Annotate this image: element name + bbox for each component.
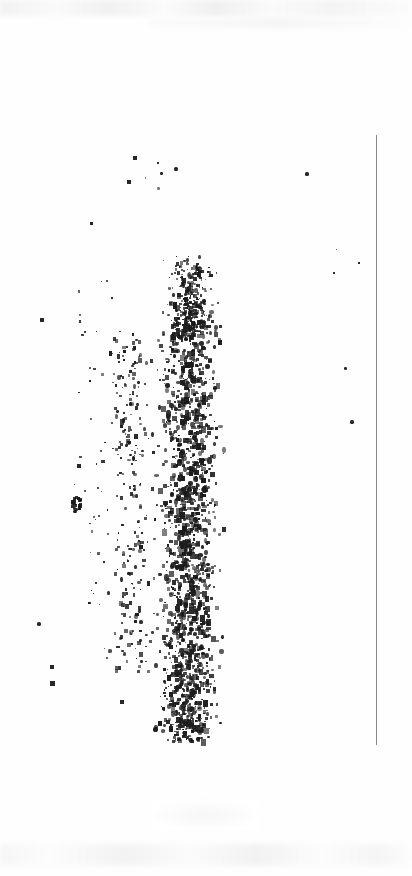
ink-speckle — [88, 602, 90, 604]
ink-speckle — [163, 260, 164, 261]
ink-speckle — [175, 458, 176, 459]
ink-speckle — [212, 370, 215, 374]
ink-speckle — [124, 629, 128, 633]
ink-speckle — [175, 687, 177, 688]
ink-speckle — [199, 528, 201, 529]
ink-speckle — [190, 723, 192, 725]
ink-speckle — [122, 376, 124, 379]
ink-speckle — [187, 618, 189, 621]
ink-speckle — [186, 263, 189, 265]
ink-speckle — [199, 363, 202, 366]
ink-speckle — [157, 339, 160, 342]
ink-speckle — [197, 305, 200, 307]
ink-speckle — [79, 320, 81, 323]
ink-speckle — [190, 507, 193, 510]
ink-speckle — [176, 497, 179, 500]
ink-speckle — [202, 488, 205, 491]
ink-speckle — [122, 524, 124, 526]
ink-speckle — [181, 370, 184, 375]
ink-speckle — [126, 439, 130, 445]
ink-speckle — [190, 399, 193, 403]
ink-speckle — [132, 377, 135, 380]
ink-speckle — [204, 707, 205, 709]
ink-speckle — [167, 669, 168, 670]
ink-speckle — [179, 642, 181, 645]
ink-speckle — [187, 307, 188, 308]
ink-speckle — [118, 446, 121, 449]
ink-speckle — [132, 456, 135, 461]
ink-speckle — [181, 494, 182, 495]
ink-speckle — [132, 372, 136, 376]
ink-speckle — [215, 606, 219, 610]
ink-speckle — [202, 472, 203, 474]
ink-speckle — [194, 669, 197, 672]
ink-speckle — [198, 583, 199, 584]
ink-speckle — [207, 397, 210, 400]
ink-speckle — [125, 588, 127, 591]
ink-speckle — [188, 632, 192, 635]
ink-speckle — [117, 454, 119, 455]
ink-speckle — [194, 499, 195, 500]
ink-speckle — [194, 309, 196, 311]
ink-speckle — [195, 316, 198, 318]
ink-speckle — [200, 623, 202, 625]
ink-speckle — [179, 266, 180, 268]
ink-speckle — [166, 582, 169, 584]
ink-speckle — [117, 474, 119, 476]
ink-speckle — [188, 256, 189, 257]
ink-speckle — [218, 340, 222, 345]
ink-speckle — [137, 581, 141, 584]
ink-speckle — [199, 662, 202, 664]
ink-speckle — [216, 272, 217, 274]
ink-speckle — [179, 648, 184, 654]
ink-speckle — [171, 320, 172, 321]
ink-speckle — [169, 701, 170, 702]
ink-speckle — [183, 466, 185, 468]
ink-speckle — [84, 331, 86, 333]
ink-speckle — [166, 570, 167, 571]
ink-speckle — [174, 372, 177, 375]
ink-speckle — [182, 329, 184, 332]
ink-speckle — [206, 470, 208, 473]
ink-speckle — [195, 706, 196, 707]
ink-speckle — [188, 735, 191, 737]
ink-speckle — [163, 724, 166, 727]
ink-speckle — [175, 565, 179, 570]
ink-speckle — [177, 599, 182, 606]
ink-speckle — [119, 637, 122, 640]
ink-speckle — [178, 655, 180, 657]
ink-speckle — [191, 680, 195, 684]
ink-speckle — [122, 596, 124, 598]
ink-speckle — [214, 390, 216, 392]
ink-speckle — [153, 727, 158, 732]
ink-speckle — [173, 631, 177, 635]
ink-speckle — [114, 572, 117, 576]
ink-speckle — [172, 293, 175, 297]
ink-speckle — [203, 580, 205, 582]
ink-speckle — [127, 434, 130, 438]
ink-speckle — [196, 636, 199, 639]
ink-speckle — [174, 617, 176, 619]
ink-speckle — [176, 438, 179, 442]
ink-speckle — [116, 410, 119, 413]
ink-speckle — [192, 718, 194, 720]
ink-speckle — [173, 365, 175, 367]
ink-speckle — [195, 476, 197, 478]
ink-speckle — [130, 402, 134, 406]
ink-speckle — [133, 384, 136, 389]
ink-speckle — [198, 653, 200, 655]
ink-speckle — [178, 587, 181, 591]
ink-speckle — [207, 621, 210, 625]
ink-speckle — [154, 474, 159, 477]
ink-speckle — [174, 519, 179, 523]
ink-speckle — [198, 518, 200, 520]
ink-speckle — [195, 643, 198, 646]
ink-speckle — [152, 451, 155, 454]
ink-speckle — [167, 314, 170, 316]
ink-speckle — [207, 403, 210, 407]
ink-speckle — [95, 519, 96, 520]
ink-speckle — [198, 275, 201, 278]
ink-speckle — [171, 712, 173, 713]
ink-speckle — [189, 466, 193, 471]
ink-speckle — [175, 320, 178, 322]
